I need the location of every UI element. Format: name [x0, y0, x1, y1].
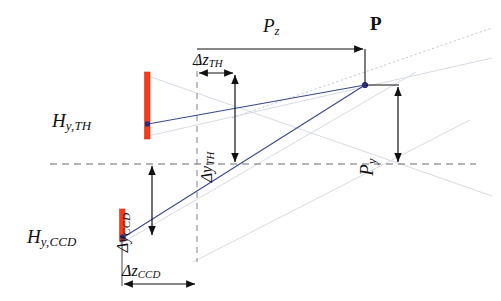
- label-delta-z-ccd: ΔzCCD: [122, 263, 161, 280]
- optical-geometry-diagram: P Pz ΔzTH ΔyTH Py Hy,TH Hy,CCD ΔyCCD ΔzC…: [0, 0, 501, 301]
- label-delta-z-th: ΔzTH: [193, 52, 223, 69]
- ray-th-to-p: [148, 85, 365, 124]
- ray-ccd-to-p: [124, 85, 365, 237]
- diagram-canvas: [0, 0, 501, 301]
- label-delta-y-th: ΔyTH: [199, 151, 216, 182]
- label-delta-y-ccd: ΔyCCD: [115, 213, 132, 252]
- chief-ray-extension: [232, 28, 492, 118]
- label-py: Py: [357, 158, 379, 176]
- label-h-y-ccd: Hy,CCD: [27, 227, 77, 249]
- faint-construction-rays: [120, 58, 492, 262]
- label-pz: Pz: [263, 16, 280, 38]
- label-point-p: P: [370, 14, 382, 33]
- marker-point-th: [145, 122, 150, 127]
- sensor-bar-th: [145, 72, 151, 139]
- label-h-y-th: Hy,TH: [52, 111, 91, 133]
- ray-bundle: [124, 85, 365, 237]
